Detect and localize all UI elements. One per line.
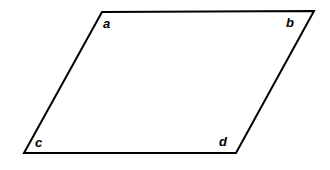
- parallelogram-shape: [0, 0, 330, 170]
- vertex-label-d: d: [219, 135, 227, 148]
- vertex-label-c: c: [35, 136, 42, 149]
- vertex-label-b: b: [286, 16, 294, 29]
- parallelogram-diagram: a b c d: [0, 0, 330, 170]
- vertex-label-a: a: [103, 17, 110, 30]
